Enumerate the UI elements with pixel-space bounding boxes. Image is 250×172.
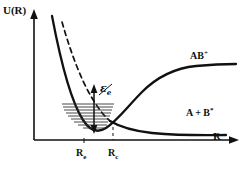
x-axis bbox=[34, 136, 239, 144]
repulsive-curve-solid-branch bbox=[110, 121, 226, 135]
diagram-canvas bbox=[0, 0, 250, 172]
vibrational-energy-levels bbox=[62, 104, 114, 128]
energy-gap-label: εe bbox=[100, 83, 111, 96]
upper-curve-label-base: AB bbox=[190, 50, 204, 61]
tick-label-re-subscript: e bbox=[83, 153, 86, 161]
tick-label-re: Re bbox=[76, 148, 86, 161]
energy-gap-label-subscript: e bbox=[107, 88, 111, 97]
energy-gap-label-base: ε bbox=[100, 82, 107, 95]
lower-curve-label: A + B* bbox=[186, 107, 214, 118]
tick-label-rc: Rc bbox=[108, 148, 118, 161]
upper-curve-label: AB+ bbox=[190, 50, 208, 61]
y-axis bbox=[30, 9, 38, 140]
lower-curve-label-base: A + B bbox=[186, 107, 210, 118]
y-axis-label: U(R) bbox=[3, 5, 26, 16]
repulsive-curve-dashed-branch bbox=[62, 22, 110, 121]
tick-label-rc-subscript: c bbox=[115, 153, 118, 161]
lower-curve-label-superscript: * bbox=[210, 106, 214, 114]
x-axis-label: R bbox=[213, 131, 221, 142]
energy-gap-arrow bbox=[91, 84, 98, 134]
upper-curve-label-superscript: + bbox=[204, 49, 208, 57]
potential-energy-diagram: U(R) R AB+ A + B* εe Re Rc bbox=[0, 0, 250, 172]
